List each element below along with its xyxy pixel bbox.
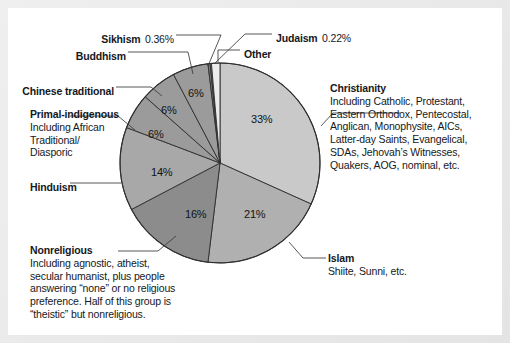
callout-nonreligious-line4: preference. Half of this group is: [30, 295, 175, 308]
leader-sikhism: [176, 35, 221, 66]
callout-other-name: Other: [244, 48, 271, 60]
callout-christianity-line5: SDAs, Jehovah’s Witnesses,: [330, 146, 471, 159]
slice-pct-hinduism: 14%: [151, 166, 172, 178]
callout-judaism-pct: 0.22%: [322, 32, 351, 44]
leader-islam: [289, 242, 326, 258]
slice-pct-nonreligious: 16%: [185, 208, 206, 220]
callout-sikhism-pct: 0.36%: [145, 33, 174, 45]
chart-canvas: 33% 21% 16% 14% 6% 6% 6% Sikhism 0.36% J…: [8, 8, 502, 335]
slice-pct-christianity: 33%: [251, 113, 272, 125]
callout-primal-name: Primal-indigenous: [30, 108, 119, 121]
callout-christianity-line2: Eastern Orthodox, Pentecostal,: [330, 108, 471, 121]
callout-hinduism-name: Hinduism: [30, 181, 77, 193]
callout-buddhism-name: Buddhism: [76, 50, 126, 62]
callout-christianity: Christianity Including Catholic, Protest…: [330, 82, 471, 172]
callout-nonreligious: Nonreligious Including agnostic, atheist…: [30, 244, 175, 321]
callout-nonreligious-name: Nonreligious: [30, 244, 175, 257]
callout-nonreligious-line2: secular humanist, plus people: [30, 270, 175, 283]
callout-primal-line1: Including African: [30, 121, 119, 134]
callout-chinese-traditional: Chinese traditional: [22, 80, 114, 100]
callout-primal-line2: Traditional/: [30, 134, 119, 147]
callout-christianity-name: Christianity: [330, 82, 471, 95]
callout-christianity-line4: Latter-day Saints, Evangelical,: [330, 133, 471, 146]
callout-judaism: Judaism 0.22%: [276, 27, 351, 47]
slice-pct-islam: 21%: [244, 208, 265, 220]
image-frame: 33% 21% 16% 14% 6% 6% 6% Sikhism 0.36% J…: [0, 0, 510, 343]
callout-other: Other: [244, 43, 271, 63]
callout-primal-line3: Diasporic: [30, 146, 119, 159]
callout-christianity-line3: Anglican, Monophysite, AICs,: [330, 120, 471, 133]
callout-christianity-line6: Quakers, AOG, nominal, etc.: [330, 159, 471, 172]
callout-islam: Islam Shiite, Sunni, etc.: [328, 252, 407, 278]
callout-judaism-name: Judaism: [276, 32, 318, 44]
callout-islam-name: Islam: [328, 252, 407, 265]
callout-sikhism-name: Sikhism: [101, 33, 140, 45]
callout-christianity-line1: Including Catholic, Protestant,: [330, 95, 471, 108]
callout-buddhism: Buddhism: [76, 45, 126, 65]
callout-hinduism: Hinduism: [30, 176, 77, 196]
leader-other: [218, 50, 240, 62]
pie-group: [120, 63, 320, 263]
callout-nonreligious-line1: Including agnostic, atheist,: [30, 257, 175, 270]
callout-nonreligious-line3: answering “none” or no religious: [30, 282, 175, 295]
slice-pct-buddhism: 6%: [188, 87, 204, 99]
callout-nonreligious-line5: “theistic” but nonreligious.: [30, 308, 175, 321]
slice-pct-primal: 6%: [148, 128, 164, 140]
callout-islam-line1: Shiite, Sunni, etc.: [328, 265, 407, 278]
callout-primal-indigenous: Primal-indigenous Including African Trad…: [30, 108, 119, 159]
callout-chinese-name: Chinese traditional: [22, 85, 114, 97]
slice-pct-chinese: 6%: [161, 104, 177, 116]
